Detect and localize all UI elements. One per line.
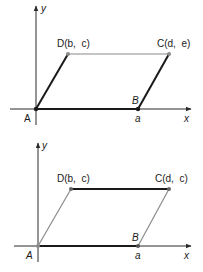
point-c (167, 187, 171, 191)
label-b-coord: a (135, 113, 141, 124)
label-b: B (132, 232, 139, 243)
y-axis-label: y (41, 140, 48, 151)
point-b (136, 244, 140, 248)
point-a (36, 244, 40, 248)
side-ad (38, 189, 71, 246)
label-c: C(d, c) (155, 173, 188, 184)
point-a (34, 107, 38, 111)
label-d: D(b, c) (57, 38, 90, 49)
side-bc (138, 189, 169, 246)
label-a: A (25, 250, 33, 261)
diagram-top: y x D(b, c) C(d, e) A B a (10, 3, 191, 125)
x-axis-label: x (183, 250, 190, 261)
point-b (136, 107, 140, 111)
diagram-bottom: y x D(b, c) C(d, c) A B a (14, 140, 191, 262)
label-b: B (132, 95, 139, 106)
side-bc (138, 54, 169, 109)
label-d: D(b, c) (57, 173, 90, 184)
point-d (66, 52, 70, 56)
y-axis-label: y (40, 3, 47, 14)
label-b-coord: a (135, 250, 141, 261)
side-ad (36, 54, 68, 109)
point-d (69, 187, 73, 191)
x-axis-label: x (183, 113, 190, 124)
label-a: A (24, 113, 31, 124)
point-c (167, 52, 171, 56)
label-c: C(d, e) (157, 38, 190, 49)
